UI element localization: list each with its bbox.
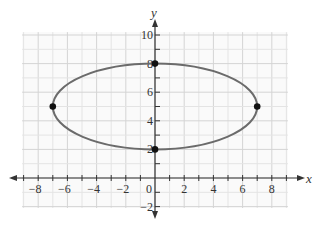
vertex-point bbox=[50, 103, 57, 110]
vertex-point bbox=[152, 60, 159, 67]
y-tick-label: 4 bbox=[147, 114, 153, 128]
x-tick-label: 8 bbox=[269, 182, 275, 196]
x-tick-label: 6 bbox=[240, 182, 246, 196]
coordinate-plane: −8−6−4−202468 −2246810 x y bbox=[0, 0, 315, 225]
x-tick-label: 4 bbox=[210, 182, 216, 196]
x-tick-label: −4 bbox=[87, 182, 100, 196]
x-axis-left-arrow-icon bbox=[9, 175, 17, 181]
y-axis-up-arrow-icon bbox=[152, 19, 158, 27]
y-tick-label: 6 bbox=[147, 85, 153, 99]
x-tick-label: −8 bbox=[29, 182, 42, 196]
x-tick-label: 0 bbox=[146, 182, 152, 196]
y-tick-label: −2 bbox=[140, 200, 153, 214]
vertex-point bbox=[254, 103, 261, 110]
vertex-point bbox=[152, 146, 159, 153]
y-tick-label: 10 bbox=[141, 28, 153, 42]
x-tick-label: 2 bbox=[181, 182, 187, 196]
x-axis-label: x bbox=[305, 171, 312, 186]
x-axis-right-arrow-icon bbox=[297, 175, 305, 181]
x-tick-label: −2 bbox=[116, 182, 129, 196]
x-tick-label: −6 bbox=[58, 182, 71, 196]
y-axis-label: y bbox=[149, 5, 157, 20]
